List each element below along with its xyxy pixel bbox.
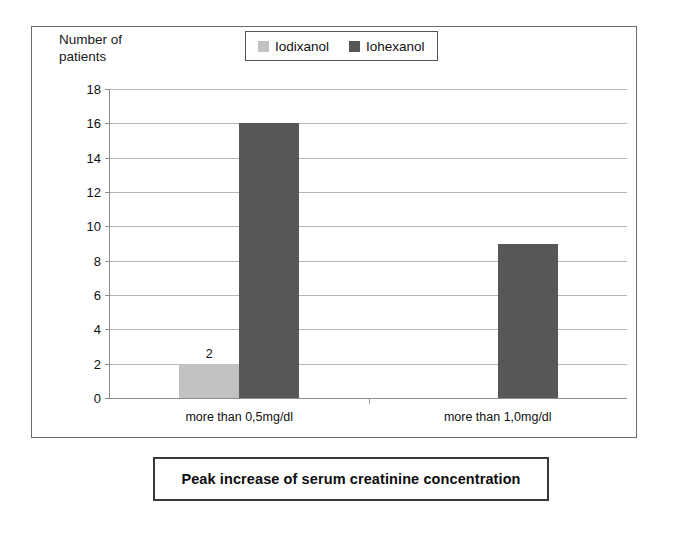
y-axis-tick <box>105 123 110 124</box>
chart-title-box: Peak increase of serum creatinine concen… <box>153 457 549 501</box>
y-axis-tick <box>105 226 110 227</box>
y-axis-tick-label: 0 <box>94 391 101 406</box>
legend-swatch-iohexanol <box>349 41 360 52</box>
y-axis-tick <box>105 364 110 365</box>
plot-inner: 1816141210864202more than 0,5mg/dlmore t… <box>110 89 627 398</box>
gridline <box>110 226 627 227</box>
gridline <box>110 192 627 193</box>
y-axis-title: Number of patients <box>59 31 209 65</box>
y-axis-tick <box>105 158 110 159</box>
plot-area: 1816141210864202more than 0,5mg/dlmore t… <box>110 89 627 398</box>
y-axis-tick <box>105 295 110 296</box>
chart-legend: Iodixanol Iohexanol <box>245 31 438 61</box>
bar-value-label: 2 <box>206 347 213 361</box>
bar-iohexanol-0 <box>239 123 299 398</box>
y-axis-tick-label: 6 <box>94 288 101 303</box>
legend-item-iohexanol: Iohexanol <box>349 39 425 54</box>
y-axis-tick <box>105 329 110 330</box>
y-axis-tick-label: 2 <box>94 356 101 371</box>
y-axis-tick-label: 12 <box>87 185 101 200</box>
gridline <box>110 123 627 124</box>
y-axis-tick <box>105 192 110 193</box>
y-axis-tick-label: 16 <box>87 116 101 131</box>
y-axis-tick-label: 18 <box>87 82 101 97</box>
y-axis-tick-label: 8 <box>94 253 101 268</box>
y-axis-tick-label: 10 <box>87 219 101 234</box>
y-axis-line <box>109 89 110 398</box>
gridline <box>110 89 627 90</box>
x-axis-category-label: more than 0,5mg/dl <box>185 410 293 424</box>
bar-iohexanol-1 <box>498 244 558 399</box>
x-axis-tick <box>369 398 370 404</box>
y-axis-tick-label: 4 <box>94 322 101 337</box>
legend-item-iodixanol: Iodixanol <box>258 39 329 54</box>
y-axis-tick <box>105 261 110 262</box>
bar-iodixanol-0: 2 <box>179 364 239 398</box>
chart-title: Peak increase of serum creatinine concen… <box>181 471 520 487</box>
legend-label-iodixanol: Iodixanol <box>275 39 329 54</box>
x-axis-category-label: more than 1,0mg/dl <box>444 410 552 424</box>
y-axis-tick <box>105 89 110 90</box>
legend-label-iohexanol: Iohexanol <box>366 39 425 54</box>
y-axis-tick <box>105 398 110 399</box>
legend-swatch-iodixanol <box>258 41 269 52</box>
y-axis-tick-label: 14 <box>87 150 101 165</box>
gridline <box>110 158 627 159</box>
